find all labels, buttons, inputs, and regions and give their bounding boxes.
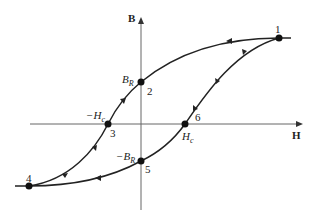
point-label-1: 1 <box>275 24 281 35</box>
h-axis-label: H <box>292 130 301 141</box>
b-axis-label: B <box>128 13 135 24</box>
br-annotation: BR <box>122 74 134 88</box>
point-label-5: 5 <box>145 164 151 175</box>
hysteresis-diagram <box>0 0 319 216</box>
point-label-6: 6 <box>195 112 201 123</box>
descending-branch <box>15 38 291 186</box>
loop-points <box>26 35 283 190</box>
hc-annotation: Hc <box>182 131 194 145</box>
ascending-branch <box>29 38 279 186</box>
point-label-4: 4 <box>26 173 32 184</box>
point-label-2: 2 <box>147 86 153 97</box>
point-label-3: 3 <box>110 128 116 139</box>
neg-br-annotation: −BR <box>116 151 135 165</box>
neg-hc-annotation: −Hc <box>86 110 105 124</box>
